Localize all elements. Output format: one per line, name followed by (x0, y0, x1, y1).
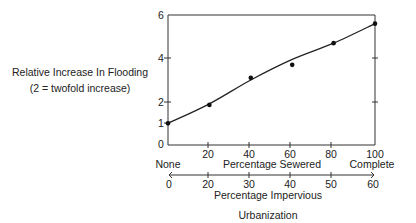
data-point (207, 103, 212, 108)
y-ticks (164, 58, 378, 123)
x-axis-impervious-title: Percentage Impervious (214, 189, 322, 201)
y-tick-0: 0 (158, 138, 164, 150)
imp-tick-20: 20 (202, 178, 214, 190)
imp-tick-0: 0 (166, 178, 172, 190)
x-tick-80: 80 (325, 148, 337, 160)
imp-tick-50: 50 (325, 178, 337, 190)
data-point (331, 41, 336, 46)
chart-canvas: 6 4 2 1 0 20 40 60 80 100 None Percentag… (0, 0, 416, 223)
x-end-label: Complete (350, 158, 395, 170)
fitted-curve (168, 24, 375, 124)
plot-frame (168, 15, 375, 145)
y-tick-4: 4 (158, 52, 164, 64)
x-axis-overall-title: Urbanization (239, 209, 298, 221)
data-point (373, 21, 378, 26)
x-start-label: None (155, 158, 180, 170)
y-tick-6: 6 (158, 9, 164, 21)
imp-tick-60: 60 (367, 178, 379, 190)
impervious-axis (169, 172, 374, 178)
y-tick-1: 1 (158, 117, 164, 129)
y-tick-2: 2 (158, 96, 164, 108)
x-axis-sewered-title: Percentage Sewered (223, 158, 321, 170)
data-point (249, 76, 254, 81)
data-point (290, 63, 295, 68)
x-tick-20: 20 (202, 148, 214, 160)
data-point (166, 121, 171, 126)
